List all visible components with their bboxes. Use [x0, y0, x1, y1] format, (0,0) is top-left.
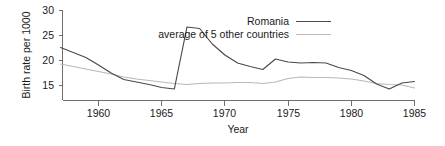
x-tick-marks: [99, 101, 415, 106]
series-line-average-of-5-other-countries: [61, 64, 415, 88]
legend: Romania average of 5 other countries: [158, 15, 331, 40]
birth-rate-line-chart: 30 25 20 15 Birth rate per 1000 1960 196…: [0, 0, 445, 146]
x-tick-label-1975: 1975: [277, 107, 301, 119]
x-tick-label-1970: 1970: [213, 107, 237, 119]
x-axis-title: Year: [227, 123, 249, 135]
chart-canvas: 30 25 20 15 Birth rate per 1000 1960 196…: [0, 0, 445, 146]
y-tick-label-30: 30: [42, 4, 54, 16]
x-tick-label-1985: 1985: [403, 107, 427, 119]
y-tick-label-20: 20: [42, 54, 54, 66]
legend-label-average: average of 5 other countries: [158, 28, 289, 40]
y-tick-label-15: 15: [42, 79, 54, 91]
x-tick-label-1965: 1965: [150, 107, 174, 119]
y-tick-label-25: 25: [42, 29, 54, 41]
y-axis-title: Birth rate per 1000: [20, 11, 32, 98]
legend-label-romania: Romania: [247, 15, 289, 27]
x-tick-label-1980: 1980: [340, 107, 364, 119]
x-tick-label-1960: 1960: [87, 107, 111, 119]
